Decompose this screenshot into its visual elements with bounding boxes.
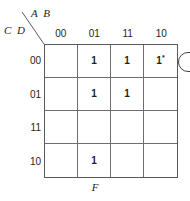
kmap-cell[interactable] — [111, 111, 144, 144]
row-variables-label: C D — [4, 24, 27, 36]
column-header-1: 01 — [78, 26, 112, 42]
group-oval-row00-cols-11-10 — [178, 52, 190, 72]
column-header-0: 00 — [44, 26, 78, 42]
kmap-cell-value: 1 — [124, 89, 130, 99]
kmap-cell[interactable] — [45, 111, 78, 144]
kmap-cell[interactable]: 1 — [78, 45, 111, 78]
column-headers: 00 01 11 10 — [44, 26, 178, 42]
karnaugh-map-diagram: A B C D 00 01 11 10 00 01 11 10 1 1 1* 1… — [0, 0, 190, 201]
kmap-grid: 1 1 1* 1 1 1 — [44, 44, 178, 178]
row-header-3: 10 — [14, 145, 41, 179]
kmap-cell[interactable]: 1 — [111, 78, 144, 111]
kmap-cell[interactable] — [78, 111, 111, 144]
kmap-cell[interactable]: 1 — [78, 144, 111, 177]
kmap-cell[interactable] — [144, 111, 177, 144]
row-headers: 00 01 11 10 — [14, 44, 41, 178]
row-header-2: 11 — [14, 111, 41, 145]
kmap-cell-value: 1 — [124, 56, 130, 66]
kmap-cell-superscript: * — [162, 54, 165, 61]
kmap-cell[interactable] — [144, 78, 177, 111]
column-variables-label: A B — [31, 7, 52, 19]
kmap-cell-value: 1 — [91, 156, 97, 166]
row-header-1: 01 — [14, 78, 41, 112]
kmap-cell[interactable]: 1 — [111, 45, 144, 78]
kmap-cell[interactable]: 1* — [144, 45, 177, 78]
kmap-cell-value: 1 — [91, 56, 97, 66]
kmap-cell[interactable]: 1 — [78, 78, 111, 111]
kmap-cell[interactable] — [45, 144, 78, 177]
kmap-cell[interactable] — [45, 45, 78, 78]
row-header-0: 00 — [14, 44, 41, 78]
kmap-cell[interactable] — [111, 144, 144, 177]
column-header-3: 10 — [145, 26, 179, 42]
output-function-label: F — [0, 181, 190, 193]
kmap-cell[interactable] — [45, 78, 78, 111]
kmap-cell-value: 1* — [156, 56, 164, 66]
kmap-cell-value: 1 — [91, 89, 97, 99]
column-header-2: 11 — [111, 26, 145, 42]
kmap-cell[interactable] — [144, 144, 177, 177]
